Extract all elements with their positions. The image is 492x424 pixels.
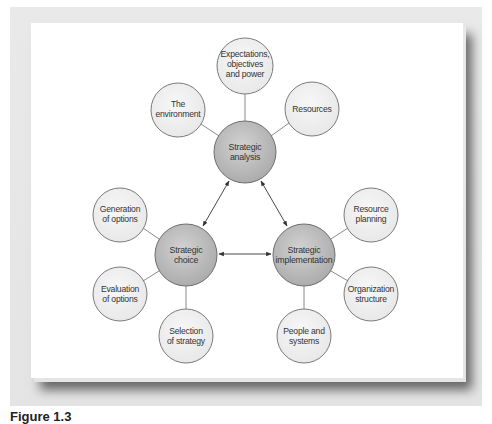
satellite-selection: Selection of strategy bbox=[159, 309, 213, 363]
label-line: Evaluation bbox=[101, 284, 140, 294]
label-line: Selection bbox=[169, 326, 203, 336]
connector-generation bbox=[143, 228, 159, 239]
connector-evaluation bbox=[143, 271, 159, 281]
label-line: Resource bbox=[353, 204, 389, 214]
label-line: and power bbox=[226, 69, 265, 79]
connector-environment bbox=[201, 124, 219, 136]
satellite-expectations: Expectations, objectives and power bbox=[217, 38, 273, 94]
label-line: choice bbox=[174, 255, 199, 265]
node-strategic-analysis: Strategic analysis bbox=[214, 121, 276, 183]
label-line: People and bbox=[283, 326, 325, 336]
arrow-analysis-implementation bbox=[261, 181, 287, 226]
connector-resources bbox=[271, 123, 289, 136]
label-line: of options bbox=[102, 214, 137, 224]
label-line: Strategic bbox=[229, 142, 263, 152]
label-line: objectives bbox=[227, 59, 263, 69]
node-strategic-choice: Strategic choice bbox=[155, 224, 217, 286]
node-strategic-implementation: Strategic implementation bbox=[273, 224, 335, 286]
label-line: of options bbox=[102, 294, 137, 304]
arrow-analysis-choice bbox=[203, 181, 229, 226]
label-line: Strategic bbox=[288, 245, 322, 255]
label-line: The bbox=[171, 99, 186, 109]
label-line: structure bbox=[355, 294, 387, 304]
figure-caption: Figure 1.3 bbox=[10, 409, 71, 424]
arrows bbox=[203, 181, 287, 254]
label-line: implementation bbox=[276, 255, 333, 265]
label-line: analysis bbox=[230, 152, 261, 162]
label-line: environment bbox=[155, 109, 201, 119]
label-line: Resources bbox=[292, 104, 331, 114]
label-line: Strategic bbox=[170, 245, 204, 255]
satellite-generation: Generation of options bbox=[93, 188, 147, 242]
label-line: systems bbox=[289, 336, 319, 346]
satellite-people: People and systems bbox=[277, 309, 331, 363]
label-line: planning bbox=[356, 214, 387, 224]
satellite-organization: Organization structure bbox=[344, 267, 398, 321]
label-line: Expectations, bbox=[221, 49, 270, 59]
label-line: Organization bbox=[348, 284, 395, 294]
connector-organization bbox=[331, 271, 348, 281]
connector-resource-planning bbox=[331, 228, 348, 239]
label-line: Generation bbox=[100, 204, 141, 214]
satellite-environment: The environment bbox=[151, 83, 205, 137]
satellite-resources: Resources bbox=[285, 82, 339, 136]
satellite-resource-planning: Resource planning bbox=[344, 188, 398, 242]
satellite-evaluation: Evaluation of options bbox=[93, 267, 147, 321]
label-line: of strategy bbox=[167, 336, 206, 346]
